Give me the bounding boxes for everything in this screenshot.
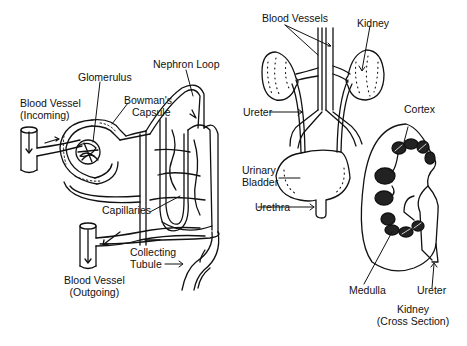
label-line: Collecting [130, 246, 176, 258]
collecting-tubule-shape [182, 232, 219, 290]
label-urinary-bladder: Urinary Bladder [242, 164, 278, 188]
label-line: (Cross Section) [373, 315, 453, 327]
label-line: (Outgoing) [64, 286, 125, 298]
glomerulus-shape [76, 140, 100, 164]
label-line: Tubule [130, 258, 176, 270]
excretory-system-diagram: Blood Vessel (Incoming) Glomerulus Bowma… [0, 0, 467, 346]
caption-kidney-cross-section: Kidney (Cross Section) [373, 303, 453, 327]
label-urethra: Urethra [255, 201, 290, 213]
kidney-cross-section-drawing [361, 124, 438, 288]
label-cortex: Cortex [404, 103, 435, 115]
label-ureter: Ureter [243, 106, 272, 118]
label-blood-vessel-outgoing: Blood Vessel (Outgoing) [64, 274, 125, 298]
label-capillaries: Capillaries [102, 204, 151, 216]
label-bowmans-capsule: Bowman's Capsule [124, 94, 172, 118]
label-blood-vessels: Blood Vessels [262, 12, 328, 24]
urinary-system-drawing [258, 25, 384, 218]
right-kidney-shape [346, 50, 384, 100]
blood-vessels-shape [290, 28, 362, 148]
label-nephron-loop: Nephron Loop [153, 58, 220, 70]
label-line: Kidney [373, 303, 453, 315]
label-line: Bladder [242, 176, 278, 188]
label-line: Blood Vessel [20, 97, 81, 109]
label-kidney: Kidney [357, 17, 389, 29]
label-collecting-tubule: Collecting Tubule [130, 246, 176, 270]
label-line: Bowman's [124, 94, 172, 106]
label-line: Urinary [242, 164, 278, 176]
label-line: Blood Vessel [64, 274, 125, 286]
label-line: (Incoming) [20, 109, 81, 121]
left-kidney-shape [262, 52, 298, 100]
label-medulla: Medulla [349, 284, 386, 296]
label-ureter-section: Ureter [417, 284, 446, 296]
label-blood-vessel-incoming: Blood Vessel (Incoming) [20, 97, 81, 121]
label-line: Capsule [124, 106, 172, 118]
label-glomerulus: Glomerulus [78, 71, 132, 83]
